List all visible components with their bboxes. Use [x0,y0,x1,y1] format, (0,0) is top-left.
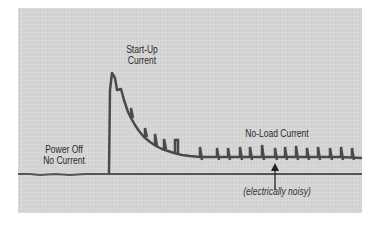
startup-current-label: Start-Up Current [117,44,168,66]
zero-baseline [18,174,362,175]
power-off-label: Power Off No Current [39,144,90,166]
startup-label-line2: Current [117,55,168,66]
current-trace [109,73,362,174]
startup-label-line1: Start-Up [117,44,168,55]
current-waveform-plot [0,0,380,226]
noload-label-text: No-Load Current [239,128,316,139]
poweroff-label-line1: Power Off [39,144,90,155]
poweroff-label-line2: No Current [39,155,90,166]
no-load-current-label: No-Load Current [239,128,316,139]
electrically-noisy-label: (electrically noisy) [235,186,320,197]
noisy-label-text: (electrically noisy) [235,186,320,197]
